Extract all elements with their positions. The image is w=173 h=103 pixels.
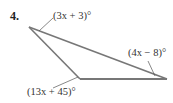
angle-label-bottom-vertex: (13x + 45)° (27, 86, 76, 97)
problem-number: 4. (10, 9, 19, 24)
triangle-diagram: 4. (3x + 3)° (4x − 8)° (13x + 45)° (0, 0, 173, 103)
side-left-bottom (29, 27, 80, 79)
angle-label-right-vertex: (4x − 8)° (128, 47, 166, 58)
angle-label-left-vertex: (3x + 3)° (53, 10, 91, 21)
leader-top-angle (39, 18, 53, 31)
